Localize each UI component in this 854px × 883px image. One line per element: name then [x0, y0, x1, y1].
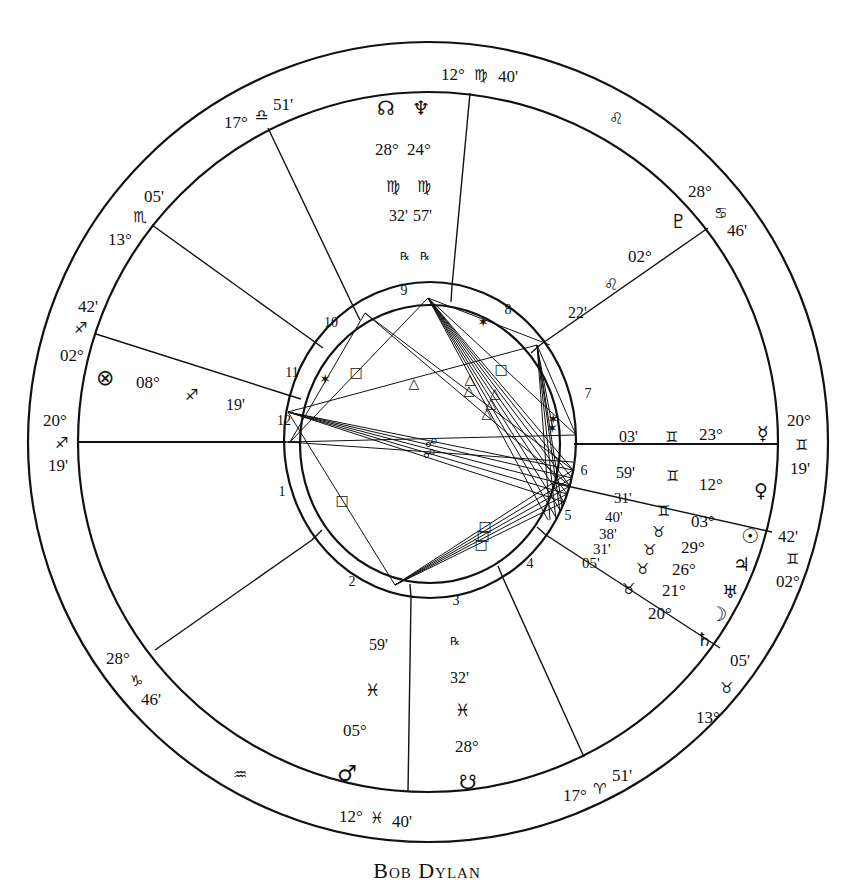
- capricorn-icon: ♑: [130, 672, 143, 690]
- jupiter-deg: 29°: [681, 538, 705, 557]
- saturn-min: 05': [582, 555, 600, 571]
- house-number-10: 10: [324, 315, 338, 330]
- pisces-icon: ♓: [365, 680, 380, 700]
- virgo-icon: ♍: [386, 177, 400, 196]
- neptune-icon: ♆: [412, 96, 430, 120]
- taurus-icon: ♉: [643, 541, 656, 559]
- cusp-line-9-mc: [452, 93, 470, 286]
- cusp-12-deg: 02°: [60, 346, 84, 365]
- virgo-icon: ♍: [474, 66, 487, 84]
- pisces-icon: ♓: [455, 700, 470, 720]
- cusp-6-deg: 02°: [776, 572, 800, 591]
- house-number-5: 5: [565, 508, 572, 523]
- retrograde-icon: ℞: [420, 250, 430, 263]
- sagittarius-icon: ♐: [185, 386, 198, 404]
- cusp-8-deg: 28°: [688, 182, 712, 201]
- cusp-6-min: 42': [778, 527, 798, 546]
- gemini-icon: ♊: [665, 428, 678, 446]
- trine-aspect-icon: △: [464, 382, 475, 398]
- scorpio-icon: ♏: [133, 208, 147, 226]
- part-of-fortune-min: 19': [226, 396, 245, 413]
- uranus-min: 38': [599, 526, 617, 542]
- cusp-10-deg: 17°: [224, 113, 248, 132]
- sun-icon: ☉: [741, 524, 759, 548]
- cusp-7-deg: 20°: [787, 411, 811, 430]
- north-node-icon: ☊: [377, 96, 395, 120]
- opposition-aspect-icon: ☍: [423, 447, 435, 461]
- moon-deg: 21°: [662, 581, 686, 600]
- house-number-2: 2: [349, 574, 356, 589]
- sextile-aspect-icon: ✶: [546, 420, 558, 436]
- venus-min: 59': [616, 464, 635, 481]
- house-number-9: 9: [401, 283, 408, 298]
- gemini-icon: ♊: [657, 502, 670, 520]
- south-node-icon: ☋: [459, 770, 477, 794]
- cusp-11-deg: 13°: [108, 230, 132, 249]
- sextile-aspect-icon: ✶: [477, 314, 489, 330]
- mercury-deg: 23°: [699, 425, 723, 444]
- cusp-1-min: 19': [48, 456, 68, 475]
- south-node-min: 32': [450, 669, 469, 686]
- gemini-icon: ♊: [786, 550, 799, 568]
- aquarius-intercepted-icon: ♒: [233, 765, 247, 784]
- retrograde-icon: ℞: [450, 635, 460, 648]
- pisces-icon: ♓: [370, 809, 383, 827]
- aries-icon: ♈: [593, 780, 606, 798]
- cusp-8-min: 46': [727, 221, 747, 240]
- cusp-7-min: 19': [790, 459, 810, 478]
- taurus-icon: ♉: [652, 523, 665, 541]
- pluto-deg: 02°: [628, 247, 652, 266]
- gemini-icon: ♊: [666, 467, 679, 485]
- taurus-icon: ♉: [622, 580, 635, 598]
- aspect-symbols: □ ✶ △ ✶ □ △ △ △ △ △ ✶ ✶ ☍ ☍ □ □ □ □: [319, 314, 559, 552]
- house-number-12: 12: [277, 413, 291, 428]
- cusp-11-min: 05': [144, 187, 164, 206]
- cusp-line-2: [155, 540, 312, 650]
- cusp-4-deg: 17°: [563, 786, 587, 805]
- cusp-line-8: [540, 228, 708, 345]
- sun-deg: 03°: [691, 512, 715, 531]
- sagittarius-icon: ♐: [74, 319, 87, 337]
- cusp-line-4: [503, 578, 584, 757]
- square-aspect-icon: □: [349, 364, 362, 380]
- cusp-9-deg: 12°: [441, 65, 465, 84]
- cusp-line-10: [268, 128, 353, 306]
- venus-deg: 12°: [699, 475, 723, 494]
- cusp-2-min: 46': [141, 690, 161, 709]
- mars-min: 59': [369, 636, 388, 653]
- house-number-3: 3: [453, 593, 460, 608]
- moon-icon: ☽: [709, 602, 727, 626]
- pluto-min: 22': [568, 304, 587, 321]
- cusp-9-min: 40': [498, 67, 518, 86]
- virgo-icon: ♍: [417, 177, 431, 196]
- house-number-4: 4: [527, 556, 534, 571]
- saturn-icon: ♄: [696, 628, 713, 650]
- house-number-11: 11: [285, 365, 298, 380]
- mars-deg: 05°: [343, 721, 367, 740]
- taurus-icon: ♉: [636, 560, 649, 578]
- sagittarius-icon: ♐: [55, 434, 68, 452]
- cusp-2-deg: 28°: [106, 649, 130, 668]
- saturn-deg: 20°: [648, 604, 672, 623]
- mercury-min: 03': [619, 428, 638, 445]
- part-of-fortune-deg: 08°: [136, 373, 160, 392]
- house-number-8: 8: [505, 302, 512, 317]
- cusp-10-min: 51': [273, 95, 293, 114]
- cancer-icon: ♋: [714, 204, 727, 222]
- cusp-line-11: [152, 225, 312, 340]
- cusp-3-min: 40': [392, 812, 412, 831]
- leo-intercepted-icon: ♌: [609, 109, 623, 128]
- north-node-deg: 28°: [375, 140, 399, 159]
- trine-aspect-icon: △: [409, 375, 420, 391]
- libra-icon: ♎: [255, 106, 268, 124]
- house-number-7: 7: [585, 386, 592, 401]
- south-node-deg: 28°: [455, 737, 479, 756]
- square-aspect-icon: □: [335, 492, 348, 508]
- mercury-icon: ☿: [757, 422, 769, 444]
- cusp-line-3: [408, 598, 411, 792]
- cusp-5-deg: 13°: [696, 708, 720, 727]
- jupiter-icon: ♃: [733, 553, 750, 575]
- jupiter-min: 40': [605, 509, 623, 525]
- north-node-min: 32': [389, 207, 408, 224]
- sun-min: 31': [614, 490, 632, 506]
